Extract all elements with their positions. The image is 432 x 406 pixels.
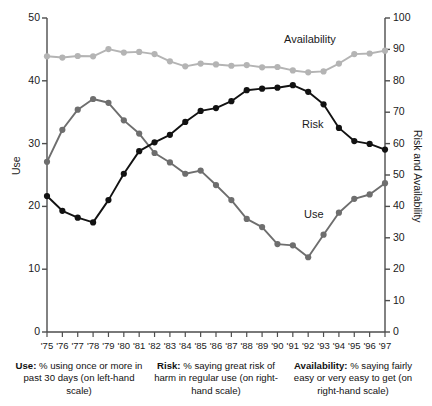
y-axis-right-tick-label: 80	[393, 74, 405, 86]
series-risk	[44, 82, 388, 225]
caption-column-risk: Risk: % saying great risk of harm in reg…	[151, 360, 281, 397]
caption-text-use: % using once or more in past 30 days (on…	[24, 360, 143, 396]
y-axis-right-tick-label: 0	[393, 325, 399, 337]
caption-term-use: Use:	[16, 360, 37, 371]
y-axis-right-title: Risk and Availability	[412, 130, 424, 223]
y-axis-right-tick-label: 60	[393, 137, 405, 149]
y-axis-left-tick-label: 0	[14, 325, 40, 337]
x-axis-tick-label: '97	[372, 340, 398, 351]
y-axis-left-tick-label: 30	[14, 137, 40, 149]
y-axis-right-tick-label: 10	[393, 294, 405, 306]
series-availability	[44, 46, 388, 75]
chart-caption: Use: % using once or more in past 30 day…	[14, 360, 418, 397]
series-annotation-availability: Availability	[284, 33, 336, 45]
caption-term-availability: Availability:	[294, 360, 348, 371]
caption-column-use: Use: % using once or more in past 30 day…	[14, 360, 144, 397]
y-axis-right-tick-label: 70	[393, 105, 405, 117]
y-axis-right-tick-label: 30	[393, 231, 405, 243]
caption-column-availability: Availability: % saying fairly easy or ve…	[288, 360, 418, 397]
y-axis-left-tick-label: 10	[14, 262, 40, 274]
caption-term-risk: Risk:	[157, 360, 180, 371]
series-annotation-use: Use	[304, 208, 324, 220]
y-axis-left-tick-label: 50	[14, 11, 40, 23]
y-axis-right-tick-label: 100	[393, 11, 411, 23]
y-axis-right-tick-label: 50	[393, 168, 405, 180]
y-axis-left-tick-label: 20	[14, 199, 40, 211]
series-use	[44, 96, 388, 260]
chart-figure: Use Risk and Availability Availability R…	[0, 0, 432, 406]
y-axis-right-tick-label: 20	[393, 262, 405, 274]
y-axis-right-tick-label: 90	[393, 42, 405, 54]
series-annotation-risk: Risk	[302, 118, 323, 130]
y-axis-left-tick-label: 40	[14, 74, 40, 86]
y-axis-right-tick-label: 40	[393, 199, 405, 211]
y-axis-left-title: Use	[10, 156, 22, 175]
